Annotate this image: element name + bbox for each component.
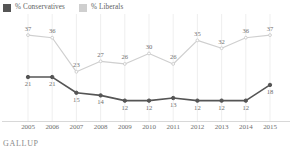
data-point	[196, 39, 199, 42]
x-axis-label: 2013	[215, 124, 229, 131]
data-label: 12	[194, 104, 201, 111]
data-point	[51, 75, 54, 78]
data-point	[75, 70, 78, 73]
data-point	[26, 75, 29, 78]
data-label: 36	[243, 27, 250, 34]
data-label: 35	[194, 30, 201, 37]
data-label: 12	[218, 104, 225, 111]
data-point	[51, 36, 54, 39]
data-point	[268, 83, 271, 86]
x-axis-label: 2010	[142, 124, 156, 131]
x-axis-label: 2009	[118, 124, 132, 131]
plot-area: 2121151412121312121218373623272630263532…	[0, 16, 292, 121]
chart-legend: % Conservatives % Liberals	[3, 2, 123, 14]
gallup-brand: GALLUP	[3, 139, 39, 148]
data-label: 27	[97, 51, 104, 58]
data-point	[99, 60, 102, 63]
data-label: 37	[267, 25, 274, 32]
data-point	[244, 36, 247, 39]
data-point	[148, 52, 151, 55]
plot-svg: 2121151412121312121218373623272630263532…	[0, 16, 292, 121]
data-point	[244, 99, 247, 102]
data-label: 30	[146, 43, 153, 50]
data-point	[123, 99, 126, 102]
x-axis-label: 2012	[191, 124, 205, 131]
x-axis-label: 2008	[94, 124, 108, 131]
data-label: 26	[122, 53, 129, 60]
data-label: 32	[218, 38, 225, 45]
legend-label-conservatives: % Conservatives	[15, 4, 65, 11]
data-point	[27, 34, 30, 37]
legend-swatch-liberals	[79, 4, 87, 12]
data-point	[172, 63, 175, 66]
data-label: 21	[49, 80, 56, 87]
data-point	[220, 47, 223, 50]
data-point	[99, 94, 102, 97]
legend-item-liberals: % Liberals	[79, 4, 123, 12]
x-axis-label: 2006	[45, 124, 59, 131]
data-label: 12	[243, 104, 250, 111]
data-label: 26	[170, 53, 177, 60]
data-label: 15	[73, 96, 80, 103]
data-label: 23	[73, 61, 80, 68]
data-point	[172, 96, 175, 99]
x-axis-line	[2, 121, 290, 122]
data-point	[269, 34, 272, 37]
x-axis-label: 2014	[239, 124, 253, 131]
data-point	[196, 99, 199, 102]
data-label: 18	[267, 88, 274, 95]
data-label: 12	[146, 104, 153, 111]
data-point	[220, 99, 223, 102]
data-label: 21	[25, 80, 32, 87]
legend-label-liberals: % Liberals	[91, 4, 123, 11]
x-axis-label: 2005	[21, 124, 35, 131]
x-axis-label: 2007	[70, 124, 84, 131]
legend-item-conservatives: % Conservatives	[3, 4, 65, 12]
data-labels-layer: 2121151412121312121218373623272630263532…	[25, 25, 274, 111]
gallup-line-chart: % Conservatives % Liberals 2121151412121…	[0, 0, 292, 155]
data-point	[75, 91, 78, 94]
data-point	[123, 63, 126, 66]
data-label: 12	[122, 104, 129, 111]
data-label: 13	[170, 101, 177, 108]
data-label: 36	[49, 27, 56, 34]
data-point	[147, 99, 150, 102]
legend-swatch-conservatives	[3, 4, 11, 12]
x-axis-label: 2011	[167, 124, 180, 131]
data-label: 14	[97, 98, 104, 105]
x-axis-labels: 2005200620072008200920102011201220132014…	[0, 124, 292, 136]
data-label: 37	[25, 25, 32, 32]
x-axis-label: 2015	[263, 124, 277, 131]
